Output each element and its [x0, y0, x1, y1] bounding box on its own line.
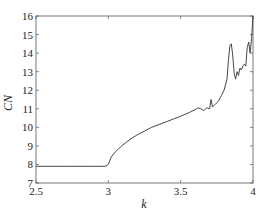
y-tick-label: 16 — [22, 10, 34, 22]
x-tick-label: 3.5 — [174, 185, 188, 197]
y-tick-label: 14 — [22, 47, 34, 59]
y-tick-label: 11 — [22, 103, 33, 115]
x-tick-label: 3 — [106, 185, 112, 197]
y-tick-label: 8 — [28, 158, 34, 170]
x-tick-label: 4 — [250, 185, 256, 197]
y-axis-label: CN — [1, 94, 15, 111]
y-tick-label: 7 — [28, 177, 34, 189]
y-tick-label: 9 — [28, 140, 34, 152]
cn-series-line — [36, 16, 253, 166]
y-tick-label: 13 — [22, 66, 34, 78]
axis-tick-labels: 2.533.5478910111213141516 — [22, 10, 256, 197]
plot-frame — [36, 16, 253, 183]
axis-ticks — [36, 16, 253, 183]
y-tick-label: 10 — [22, 121, 34, 133]
y-tick-label: 15 — [22, 29, 34, 41]
line-chart: 2.533.5478910111213141516 k CN — [0, 0, 265, 213]
plot-border — [36, 16, 253, 183]
x-axis-label: k — [141, 197, 147, 211]
y-tick-label: 12 — [22, 84, 33, 96]
